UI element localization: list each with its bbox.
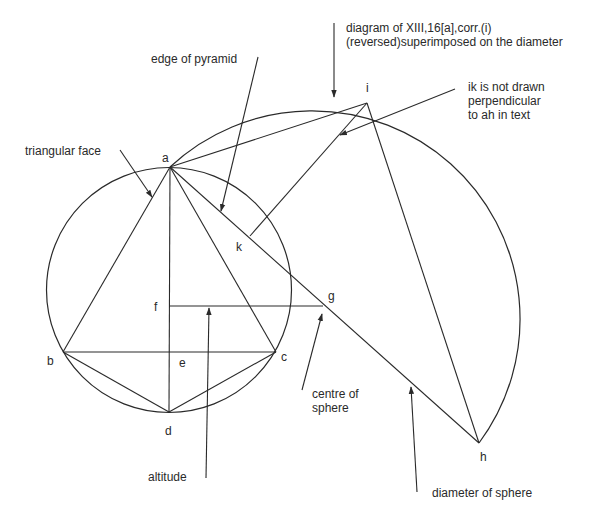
point-label-h: h	[480, 450, 487, 464]
annotation-edge-of-pyramid: edge of pyramid	[151, 52, 237, 66]
line-ai	[170, 103, 367, 167]
arrow-altitude	[206, 308, 209, 478]
line-ih	[367, 103, 479, 443]
line-ad	[169, 167, 170, 412]
annotation-centre-of-sphere: centre of sphere	[312, 387, 362, 415]
point-label-k: k	[236, 240, 243, 254]
annotation-triangular-face: triangular face	[25, 144, 101, 158]
point-label-d: d	[165, 424, 172, 438]
annotation-diameter-of-sphere: diameter of sphere	[432, 486, 532, 500]
point-label-b: b	[47, 354, 54, 368]
line-ik	[250, 103, 367, 236]
annotation-ik-note: ik is not drawn perpendicular to ah in t…	[468, 80, 548, 122]
arrow-ik-note	[340, 89, 455, 135]
arrow-triangular-face	[120, 150, 152, 197]
point-label-e: e	[179, 356, 186, 370]
arrow-centre-of-sphere	[302, 314, 322, 390]
line-bd	[63, 352, 169, 412]
edge-ac	[170, 167, 276, 352]
pyramid-sphere-diagram: a b c d e f g h i k diagram of XIII,16[a…	[0, 0, 596, 521]
edge-ab	[63, 167, 170, 352]
annotation-diagram-note: diagram of XIII,16[a],corr.(i) (reversed…	[346, 21, 563, 49]
point-label-a: a	[162, 151, 169, 165]
point-label-c: c	[281, 350, 287, 364]
annotation-altitude: altitude	[148, 470, 187, 484]
arrow-diameter-of-sphere	[411, 387, 417, 492]
arrow-edge-of-pyramid	[221, 57, 258, 211]
point-label-i: i	[366, 81, 369, 95]
point-label-f: f	[154, 300, 158, 314]
point-label-g: g	[328, 289, 335, 303]
